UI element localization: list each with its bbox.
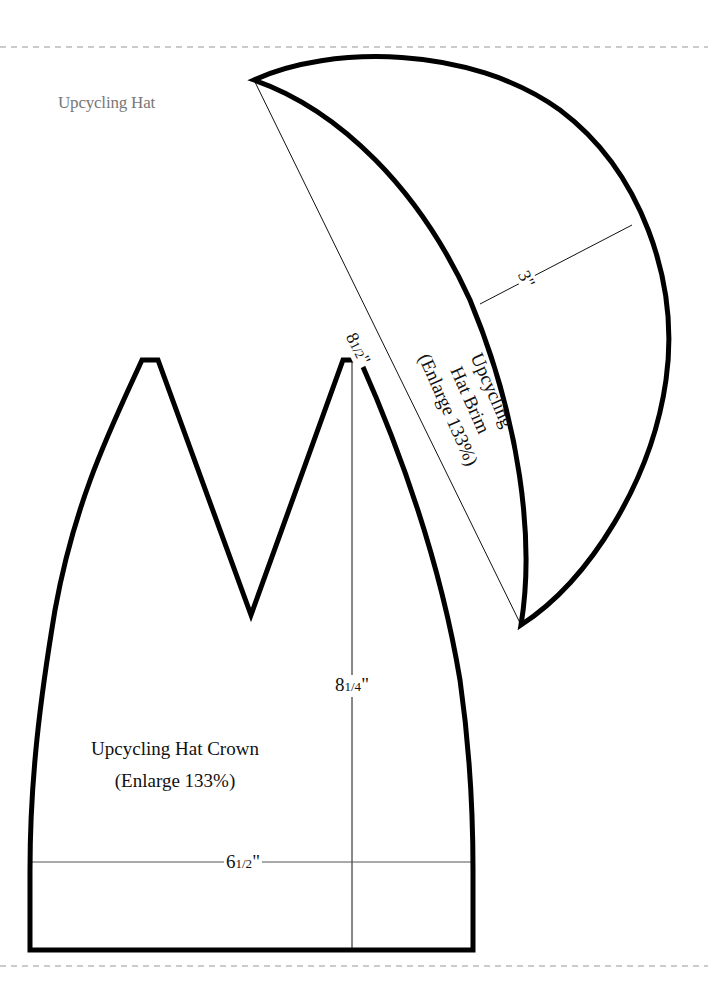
crown-height-unit: " [361,674,369,695]
brim-depth-line [480,225,632,304]
page-title: Upcycling Hat [58,93,155,113]
crown-label-line2: (Enlarge 133%) [40,765,310,797]
crown-label-line1: Upcycling Hat Crown [40,733,310,765]
crown-height-dimension: 81/4" [333,675,371,697]
crown-width-dimension: 61/2" [224,852,262,874]
pattern-canvas [0,0,708,994]
crown-height-whole: 8 [335,674,345,695]
crown-label: Upcycling Hat Crown (Enlarge 133%) [40,733,310,797]
crown-width-whole: 6 [226,851,236,872]
crown-width-frac: 1/2 [236,856,253,871]
crown-height-frac: 1/4 [345,679,362,694]
crown-width-unit: " [252,851,260,872]
